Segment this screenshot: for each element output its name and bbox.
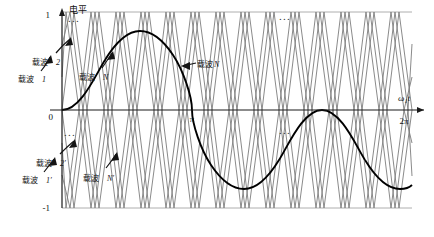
x-tick-pi: π	[190, 114, 195, 124]
label-carrier1p-cn: 载波	[22, 175, 38, 185]
label-carrierN-cn: 载波	[79, 72, 95, 82]
x-tick-2pi: 2π	[399, 116, 409, 126]
label-carrier2-index: 2	[56, 58, 60, 67]
label-carrierNp-index: N′	[106, 174, 114, 183]
y-tick-1: 1	[46, 10, 51, 20]
label-carrierN-index: N	[102, 73, 109, 82]
x-axis-arrow	[417, 107, 424, 113]
figure-svg: 1 0 -1 电平 π 2π ω₁t ... ... ... ... 载波	[0, 0, 434, 237]
ellipsis-lower-left: ...	[64, 126, 76, 138]
ellipsis-upper-right: ...	[279, 10, 291, 22]
label-carrier1-index: 1	[42, 75, 46, 84]
label-carrier2-cn: 载波	[32, 57, 48, 67]
label-carrierNp-cn: 载波	[83, 173, 99, 183]
pwm-carrier-figure: 1 0 -1 电平 π 2π ω₁t ... ... ... ... 载波	[0, 0, 434, 237]
label-carrierN-right-index: N	[213, 60, 220, 69]
label-carrier2p-index: 2′	[60, 159, 66, 168]
ellipsis-upper-left: ...	[68, 12, 80, 24]
label-carrierN-right-cn: 载波	[197, 59, 213, 69]
ellipsis-lower-right: ...	[279, 124, 291, 136]
x-axis-label: ω₁t	[398, 93, 410, 103]
label-carrier2p-cn: 载波	[36, 158, 52, 168]
label-carrier1-cn: 载波	[18, 74, 34, 84]
label-carrier1p-index: 1′	[46, 176, 52, 185]
y-tick-minus1: -1	[43, 203, 51, 213]
y-tick-0: 0	[49, 112, 54, 122]
